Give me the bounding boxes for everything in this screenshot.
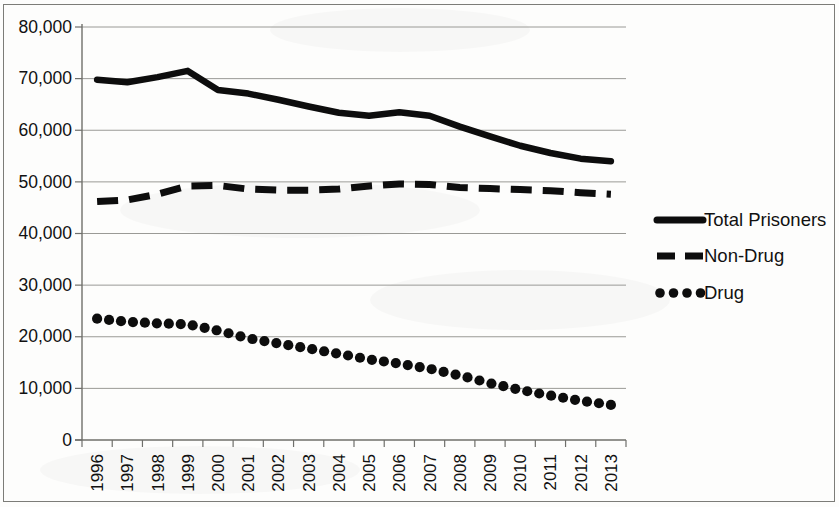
legend-label: Drug: [704, 282, 744, 303]
data-marker: [546, 391, 556, 401]
data-marker: [104, 315, 114, 325]
data-marker: [570, 395, 580, 405]
data-marker: [140, 318, 150, 328]
data-marker: [534, 388, 544, 398]
x-axis-tick-label: 2003: [300, 454, 319, 492]
data-marker: [498, 381, 508, 391]
data-marker: [594, 398, 604, 408]
data-marker: [450, 369, 460, 379]
x-axis-tick-label: 1996: [88, 454, 107, 492]
data-marker: [200, 323, 210, 333]
data-marker: [462, 372, 472, 382]
x-axis-tick-label: 2013: [602, 454, 621, 492]
x-axis-ticks: [82, 440, 626, 447]
x-axis-tick-label: 2009: [481, 454, 500, 492]
data-marker: [439, 367, 449, 377]
chart-figure: 010,00020,00030,00040,00050,00060,00070,…: [0, 0, 839, 507]
y-axis-tick-label: 80,000: [18, 17, 72, 37]
data-marker: [247, 334, 257, 344]
data-marker: [152, 318, 162, 328]
data-marker: [176, 319, 186, 329]
data-marker: [235, 331, 245, 341]
data-marker: [164, 319, 174, 329]
data-marker: [295, 342, 305, 352]
x-axis-tick-label: 2002: [269, 454, 288, 492]
legend-label: Total Prisoners: [704, 209, 826, 230]
data-marker: [355, 353, 365, 363]
data-marker: [343, 350, 353, 360]
data-marker: [427, 364, 437, 374]
legend-swatch-dot: [669, 288, 679, 298]
x-axis-tick-label: 1999: [179, 454, 198, 492]
data-marker: [379, 356, 389, 366]
data-marker: [92, 314, 102, 324]
data-marker: [188, 320, 198, 330]
data-marker: [211, 325, 221, 335]
data-marker: [128, 317, 138, 327]
data-marker: [510, 384, 520, 394]
x-axis-tick-label: 2006: [390, 454, 409, 492]
y-axis-tick-label: 0: [62, 430, 72, 450]
legend-label: Non-Drug: [704, 245, 784, 266]
data-marker: [522, 386, 532, 396]
data-marker: [331, 348, 341, 358]
data-marker: [415, 362, 425, 372]
y-axis-tick-label: 10,000: [18, 378, 72, 398]
y-axis-tick-label: 30,000: [18, 275, 72, 295]
x-axis-tick-label: 1997: [118, 454, 137, 492]
data-marker: [283, 340, 293, 350]
x-axis-tick-label: 2007: [421, 454, 440, 492]
data-marker: [223, 328, 233, 338]
legend-swatch-dot: [655, 288, 665, 298]
data-marker: [319, 346, 329, 356]
data-marker: [558, 393, 568, 403]
y-axis-tick-label: 70,000: [18, 68, 72, 88]
y-axis-ticks: [75, 27, 82, 440]
data-marker: [271, 338, 281, 348]
y-axis-tick-label: 50,000: [18, 172, 72, 192]
legend-item-total-prisoners[interactable]: Total Prisoners: [657, 209, 826, 230]
data-marker: [259, 336, 269, 346]
y-axis-tick-label: 20,000: [18, 326, 72, 346]
legend-item-non-drug[interactable]: Non-Drug: [657, 245, 784, 266]
series-total-prisoners: [97, 71, 611, 161]
x-axis-tick-label: 1998: [149, 454, 168, 492]
data-marker: [116, 316, 126, 326]
y-axis-labels: 010,00020,00030,00040,00050,00060,00070,…: [18, 17, 72, 450]
y-axis-tick-label: 60,000: [18, 120, 72, 140]
data-marker: [391, 358, 401, 368]
x-axis-tick-label: 2010: [511, 454, 530, 492]
x-axis-tick-label: 2000: [209, 454, 228, 492]
x-axis-tick-label: 2005: [360, 454, 379, 492]
x-axis-tick-label: 2008: [451, 454, 470, 492]
data-marker: [474, 375, 484, 385]
x-axis-tick-label: 2004: [330, 454, 349, 492]
legend-swatch-dot: [682, 288, 692, 298]
data-marker: [606, 400, 616, 410]
x-axis-tick-label: 2011: [541, 454, 560, 491]
data-marker: [582, 397, 592, 407]
data-marker: [486, 378, 496, 388]
data-marker: [307, 344, 317, 354]
data-marker: [403, 360, 413, 370]
chart-canvas: 010,00020,00030,00040,00050,00060,00070,…: [0, 0, 839, 507]
x-axis-tick-label: 2001: [239, 454, 258, 492]
chart-legend: Total PrisonersNon-DrugDrug: [655, 209, 826, 303]
y-axis-tick-label: 40,000: [18, 223, 72, 243]
data-marker: [367, 355, 377, 365]
data-series: [92, 71, 616, 410]
x-axis-tick-label: 2012: [572, 454, 591, 492]
